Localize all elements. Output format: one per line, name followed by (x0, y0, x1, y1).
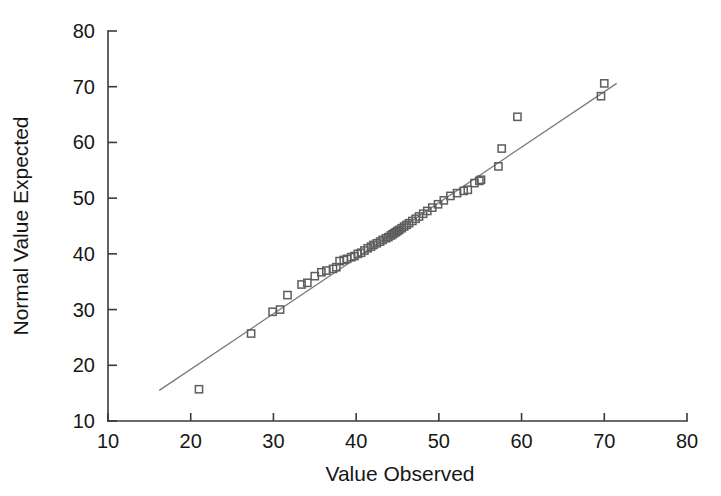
y-tick-label: 20 (73, 354, 95, 376)
y-axis-tick-marks (108, 31, 117, 421)
y-tick-label: 10 (73, 410, 95, 432)
x-tick-label: 50 (428, 430, 450, 452)
x-tick-label: 80 (676, 430, 698, 452)
y-axis-tick-labels: 1020304050607080 (73, 20, 95, 432)
x-tick-label: 70 (593, 430, 615, 452)
x-tick-label: 60 (510, 430, 532, 452)
x-tick-label: 20 (180, 430, 202, 452)
scatter-point (601, 80, 608, 87)
scatter-point (195, 386, 202, 393)
x-tick-label: 10 (97, 430, 119, 452)
y-tick-label: 60 (73, 131, 95, 153)
y-tick-label: 50 (73, 187, 95, 209)
x-tick-label: 40 (345, 430, 367, 452)
qq-plot-figure: 1020304050607080 1020304050607080 Value … (0, 0, 721, 496)
x-tick-label: 30 (262, 430, 284, 452)
x-axis-tick-labels: 1020304050607080 (97, 430, 698, 452)
scatter-point (284, 291, 291, 298)
y-tick-label: 30 (73, 299, 95, 321)
scatter-point (514, 113, 521, 120)
chart-canvas: 1020304050607080 1020304050607080 Value … (0, 0, 721, 496)
x-axis-tick-marks (108, 413, 687, 421)
y-axis-title: Normal Value Expected (9, 116, 32, 335)
scatter-point (498, 145, 505, 152)
x-axis-title: Value Observed (325, 462, 474, 485)
scatter-data-points (195, 80, 608, 393)
y-tick-label: 40 (73, 243, 95, 265)
y-tick-label: 80 (73, 20, 95, 42)
y-tick-label: 70 (73, 76, 95, 98)
